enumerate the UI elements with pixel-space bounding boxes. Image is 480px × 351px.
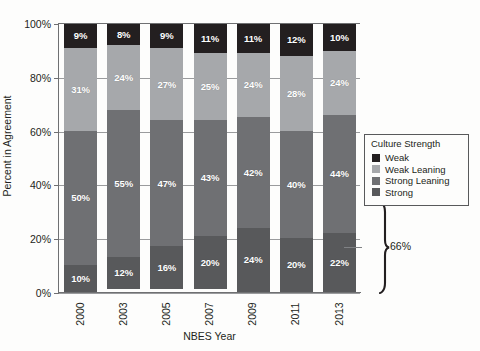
bar-segment-2013-weak-leaning[interactable]: 24%	[323, 51, 356, 115]
x-axis-tick-2009: 2009	[236, 297, 269, 322]
y-axis-tick	[54, 239, 59, 240]
bar-segment-2009-weak-leaning[interactable]: 24%	[237, 53, 270, 117]
y-axis-tick-label: 40%	[30, 179, 51, 191]
bar-segment-2000-weak-leaning[interactable]: 31%	[64, 48, 97, 131]
bar-segment-value: 44%	[330, 169, 349, 179]
bar-segment-value: 11%	[201, 34, 219, 44]
y-axis-tick	[54, 132, 59, 133]
bar-segment-2011-weak-leaning[interactable]: 28%	[280, 56, 313, 131]
bar-segment-value: 22%	[330, 258, 349, 268]
bar-segment-value: 28%	[287, 89, 306, 99]
bar-segment-2013-weak[interactable]: 10%	[323, 24, 356, 51]
legend-item-label: Strong Leaning	[385, 176, 449, 186]
legend-items: WeakWeak LeaningStrong LeaningStrong	[370, 152, 463, 198]
bar-2011[interactable]: 12%28%40%20%	[280, 24, 313, 292]
legend-item-label: Weak	[385, 153, 409, 163]
legend-swatch-icon	[372, 188, 380, 196]
legend-item-label: Strong	[385, 188, 413, 198]
bar-segment-value: 24%	[114, 73, 133, 83]
bar-segment-2000-strong-leaning[interactable]: 50%	[64, 131, 97, 265]
bar-segment-2007-weak-leaning[interactable]: 25%	[194, 53, 227, 120]
bar-segment-value: 20%	[287, 260, 306, 270]
bar-segment-value: 47%	[157, 179, 176, 189]
bar-segment-value: 16%	[157, 263, 176, 273]
bar-segment-value: 10%	[330, 33, 349, 43]
bar-segment-2009-weak[interactable]: 11%	[237, 24, 270, 53]
x-axis-tick-label: 2007	[203, 302, 215, 325]
bar-segment-2007-strong-leaning[interactable]: 43%	[194, 120, 227, 235]
bar-segment-2009-strong[interactable]: 24%	[237, 228, 270, 292]
bar-segment-value: 27%	[157, 80, 176, 90]
bar-segment-2007-weak[interactable]: 11%	[194, 24, 227, 53]
bar-2005[interactable]: 9%27%47%16%	[150, 24, 183, 292]
bar-2007[interactable]: 11%25%43%20%	[194, 24, 227, 292]
bar-segment-2003-strong-leaning[interactable]: 55%	[107, 110, 140, 257]
bar-2000[interactable]: 9%31%50%10%	[64, 24, 97, 292]
y-axis-tick-label: 80%	[30, 72, 51, 84]
y-axis-tick-label: 100%	[24, 18, 51, 30]
legend-swatch-icon	[372, 177, 380, 185]
bar-segment-value: 42%	[244, 168, 263, 178]
y-axis-tick-label: 0%	[36, 287, 51, 299]
x-axis-tick-2007: 2007	[193, 297, 226, 322]
bar-segment-value: 12%	[287, 35, 306, 45]
x-axis-tick-label: 2005	[160, 302, 172, 325]
legend-item-weak[interactable]: Weak	[372, 152, 463, 164]
y-axis-tick-label: 20%	[30, 233, 51, 245]
bar-segment-2011-strong-leaning[interactable]: 40%	[280, 131, 313, 238]
legend-swatch-icon	[372, 154, 380, 162]
x-axis-tick-2000: 2000	[63, 297, 96, 322]
bar-segment-2009-strong-leaning[interactable]: 42%	[237, 117, 270, 228]
bar-segment-value: 20%	[201, 258, 220, 268]
bar-segment-2011-weak[interactable]: 12%	[280, 24, 313, 56]
bar-segment-value: 9%	[160, 31, 174, 41]
bar-segment-2007-strong[interactable]: 20%	[194, 236, 227, 290]
bar-segment-value: 8%	[117, 30, 131, 40]
bar-segment-value: 40%	[287, 180, 306, 190]
bar-segment-2011-strong[interactable]: 20%	[280, 238, 313, 292]
legend: Culture Strength WeakWeak LeaningStrong …	[364, 134, 469, 206]
legend-item-weak-leaning[interactable]: Weak Leaning	[372, 164, 463, 176]
legend-item-label: Weak Leaning	[385, 165, 446, 175]
bar-segment-2000-strong[interactable]: 10%	[64, 265, 97, 292]
bar-2003[interactable]: 8%24%55%12%	[107, 24, 140, 292]
bar-segment-value: 50%	[71, 193, 90, 203]
bar-segment-2005-strong-leaning[interactable]: 47%	[150, 120, 183, 246]
bar-segment-value: 25%	[201, 82, 220, 92]
bar-segment-2000-weak[interactable]: 9%	[64, 24, 97, 48]
bar-segment-2005-weak[interactable]: 9%	[150, 24, 183, 48]
x-axis-tick-2003: 2003	[106, 297, 139, 322]
x-axis-tick-label: 2011	[289, 303, 301, 326]
bar-segment-2005-strong[interactable]: 16%	[150, 246, 183, 289]
x-axis-title: NBES Year	[58, 330, 361, 342]
bar-segment-2003-weak[interactable]: 8%	[107, 24, 140, 45]
x-axis-tick-2011: 2011	[279, 297, 312, 322]
brace-annotation: 66%	[358, 200, 418, 295]
bar-segment-2013-strong-leaning[interactable]: 44%	[323, 115, 356, 233]
bar-segment-2003-weak-leaning[interactable]: 24%	[107, 45, 140, 109]
bar-segment-value: 11%	[244, 34, 262, 44]
y-axis-tick	[54, 24, 59, 25]
plot-area: 0%20%40%60%80%100%9%31%50%10%8%24%55%12%…	[58, 23, 360, 292]
legend-swatch-icon	[372, 165, 380, 173]
y-axis-tick	[54, 78, 59, 79]
bar-segment-2003-strong[interactable]: 12%	[107, 257, 140, 289]
y-axis-title: Percent in Agreement	[1, 96, 13, 197]
legend-item-strong-leaning[interactable]: Strong Leaning	[372, 175, 463, 187]
gridline	[59, 293, 360, 294]
x-axis-tick-label: 2000	[74, 302, 86, 325]
bar-segment-value: 43%	[201, 173, 220, 183]
bar-2009[interactable]: 11%24%42%24%	[237, 24, 270, 292]
bar-segment-value: 10%	[71, 274, 90, 284]
legend-item-strong[interactable]: Strong	[372, 187, 463, 199]
x-axis-tick-2005: 2005	[149, 297, 182, 322]
x-axis-tick-label: 2013	[332, 302, 344, 325]
bar-2013[interactable]: 10%24%44%22%	[323, 24, 356, 292]
y-axis-tick	[54, 293, 59, 294]
bar-segment-2005-weak-leaning[interactable]: 27%	[150, 48, 183, 120]
bar-segment-2013-strong[interactable]: 22%	[323, 233, 356, 292]
x-axis-tick-label: 2009	[246, 302, 258, 325]
bar-segment-value: 12%	[114, 268, 133, 278]
bar-segment-value: 24%	[244, 80, 263, 90]
bar-segment-value: 31%	[71, 85, 90, 95]
